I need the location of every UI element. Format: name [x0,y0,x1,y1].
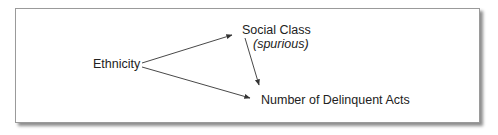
node-social-class-annotation: (spurious) [253,38,309,51]
arrow-ethnicity-to-delinquent-acts [142,67,250,98]
arrows-layer [0,0,498,135]
node-social-class: Social Class [242,24,311,37]
node-delinquent-acts: Number of Delinquent Acts [261,94,410,107]
node-ethnicity: Ethnicity [93,58,140,71]
arrow-ethnicity-to-social-class [142,35,232,63]
